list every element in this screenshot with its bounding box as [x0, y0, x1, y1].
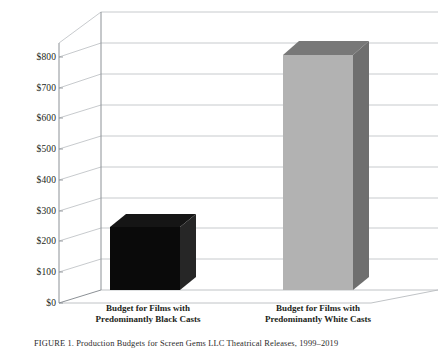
- x-axis-category-labels: Budget for Films with Predominantly Blac…: [0, 303, 438, 337]
- category-label-white-casts-line1: Budget for Films with: [276, 303, 360, 313]
- ytick-label-500: $500: [8, 144, 56, 154]
- ytick-label-700: $700: [8, 83, 56, 93]
- floor-group: [59, 290, 438, 303]
- ytick-label-100: $100: [8, 267, 56, 277]
- y-axis-group: [59, 12, 101, 303]
- y-axis-depth-line: [59, 290, 101, 303]
- chart-plot-area: $800 $700 $600 $500 $400 $300 $200 $100 …: [0, 0, 438, 315]
- gridline-600: [59, 105, 438, 118]
- ytick-label-300: $300: [8, 206, 56, 216]
- category-label-black-casts-line2: Predominantly Black Casts: [64, 314, 232, 325]
- gridline-700: [59, 74, 438, 88]
- bar-white-casts[interactable]: [283, 41, 369, 290]
- y-tick-marks: [59, 57, 63, 303]
- bar-black-casts-front: [110, 227, 180, 290]
- gridline-top: [59, 12, 438, 43]
- gridline-400: [59, 167, 438, 180]
- bar-black-casts[interactable]: [110, 214, 196, 290]
- ytick-label-200: $200: [8, 236, 56, 246]
- category-label-white-casts-line2: Predominantly White Casts: [234, 314, 402, 325]
- ytick-label-800: $800: [8, 52, 56, 62]
- y-axis-tick-labels: $800 $700 $600 $500 $400 $300 $200 $100 …: [4, 0, 56, 315]
- gridline-800: [59, 43, 438, 57]
- category-label-white-casts: Budget for Films with Predominantly Whit…: [234, 303, 402, 326]
- bar-white-casts-front: [283, 55, 353, 290]
- category-label-black-casts: Budget for Films with Predominantly Blac…: [64, 303, 232, 326]
- floor-right-edge: [371, 290, 438, 303]
- category-label-black-casts-line1: Budget for Films with: [106, 303, 190, 313]
- ytick-label-400: $400: [8, 175, 56, 185]
- figure-container: $800 $700 $600 $500 $400 $300 $200 $100 …: [0, 0, 438, 349]
- figure-caption: FIGURE 1. Production Budgets for Screen …: [34, 339, 406, 349]
- bar-white-casts-side: [353, 41, 369, 290]
- bar-black-casts-side: [180, 214, 196, 290]
- bar-chart-svg: [0, 0, 438, 315]
- gridline-300: [59, 198, 438, 211]
- gridline-500: [59, 136, 438, 149]
- ytick-label-600: $600: [8, 113, 56, 123]
